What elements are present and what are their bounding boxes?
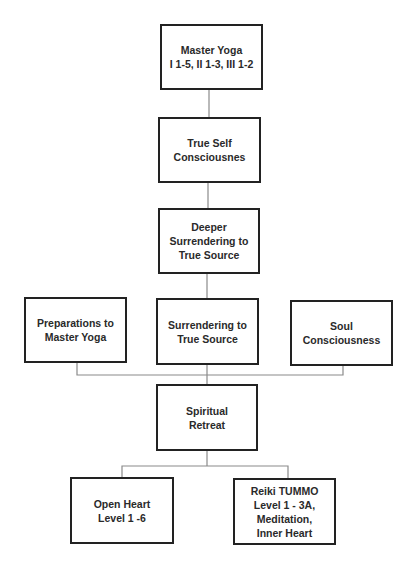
node-true-self: True Self Consciousnes: [158, 117, 261, 183]
node-reiki-tummo: Reiki TUMMO Level 1 - 3A, Meditation, In…: [233, 478, 336, 545]
node-surrendering: Surrendering to True Source: [156, 298, 259, 365]
node-open-heart: Open Heart Level 1 -6: [70, 477, 174, 544]
node-deeper-surrendering: Deeper Surrendering to True Source: [158, 208, 260, 274]
node-preparations: Preparations to Master Yoga: [24, 297, 127, 363]
node-spiritual-retreat: Spiritual Retreat: [156, 384, 258, 451]
node-master-yoga: Master Yoga I 1-5, II 1-3, III 1-2: [160, 24, 263, 90]
node-soul: Soul Consciousness: [290, 300, 393, 366]
